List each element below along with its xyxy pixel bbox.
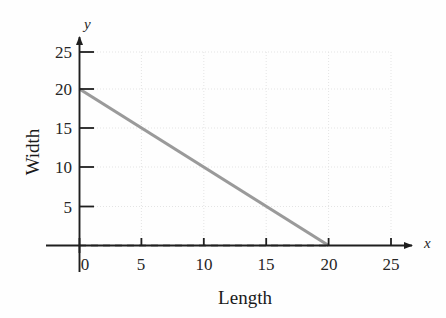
x-tick-label-15: 15 xyxy=(258,256,275,273)
x-tick-label-5: 5 xyxy=(137,256,146,273)
chart-figure: y x 5 10 15 20 25 0 5 10 15 20 25 Length… xyxy=(0,0,446,318)
y-axis-title: Width xyxy=(23,129,42,176)
y-tick-label-25: 25 xyxy=(55,44,72,61)
x-tick-label-0: 0 xyxy=(81,256,90,273)
y-tick-label-20: 20 xyxy=(55,81,72,98)
x-axis-title: Length xyxy=(218,288,272,307)
y-tick-label-15: 15 xyxy=(55,120,72,137)
x-tick-label-10: 10 xyxy=(196,256,213,273)
gridlines-vertical xyxy=(141,52,391,246)
x-tick-label-25: 25 xyxy=(383,256,400,273)
x-axis-variable-label: x xyxy=(424,236,431,251)
x-tick-label-20: 20 xyxy=(321,256,338,273)
y-tick-label-10: 10 xyxy=(55,159,72,176)
y-axis-variable-label: y xyxy=(84,17,91,32)
y-tick-label-5: 5 xyxy=(64,199,73,216)
gridlines-horizontal xyxy=(79,52,391,207)
y-axis-ticks xyxy=(80,52,95,207)
